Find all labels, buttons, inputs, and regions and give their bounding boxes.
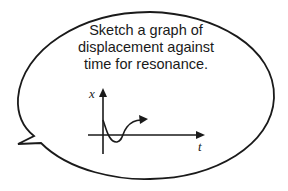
prompt-line: Sketch a graph of xyxy=(56,22,236,39)
y-axis-label: x xyxy=(89,86,95,102)
prompt-text: Sketch a graph of displacement against t… xyxy=(56,22,236,73)
speech-bubble-diagram: Sketch a graph of displacement against t… xyxy=(0,0,288,191)
prompt-line: displacement against xyxy=(56,39,236,56)
prompt-line: time for resonance. xyxy=(56,56,236,73)
x-axis-label: t xyxy=(198,139,202,155)
